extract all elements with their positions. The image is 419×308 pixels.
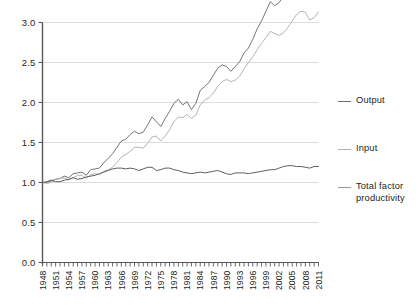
x-tick-label: 1966 bbox=[117, 270, 127, 290]
x-tick-label: 1975 bbox=[156, 270, 166, 290]
x-tick-label: 1948 bbox=[38, 270, 48, 290]
x-tick-label: 2008 bbox=[301, 270, 311, 290]
x-tick-label: 2011 bbox=[314, 270, 324, 289]
y-tick-label: 2.0 bbox=[22, 97, 36, 108]
legend-label-1: Input bbox=[356, 143, 377, 155]
series-line-input bbox=[43, 11, 319, 183]
x-tick-label: 1963 bbox=[103, 270, 113, 290]
x-tick-label: 1969 bbox=[130, 270, 140, 290]
x-tick-label: 1978 bbox=[169, 270, 179, 290]
legend-label-2: Total factor productivity bbox=[356, 181, 405, 204]
x-tick-label: 1972 bbox=[143, 270, 153, 290]
x-tick-label: 1987 bbox=[209, 270, 219, 290]
x-tick-label: 1981 bbox=[182, 270, 192, 290]
y-tick-label: 1.0 bbox=[22, 177, 36, 188]
y-tick-label: 1.5 bbox=[22, 137, 36, 148]
y-tick-label: 3.0 bbox=[22, 17, 36, 28]
x-tick-label: 1951 bbox=[51, 270, 61, 290]
legend-label-0: Output bbox=[356, 95, 385, 107]
x-tick-label: 1957 bbox=[77, 270, 87, 290]
x-tick-label: 1996 bbox=[248, 270, 258, 290]
legend-swatch-0 bbox=[338, 101, 351, 102]
y-tick-label: 0.5 bbox=[22, 217, 36, 228]
x-tick-label: 1984 bbox=[195, 270, 205, 290]
series-line-output bbox=[43, 0, 319, 183]
line-chart: 0.00.51.01.52.02.53.01948195119541957196… bbox=[0, 0, 419, 308]
x-tick-label: 2005 bbox=[287, 270, 297, 290]
x-tick-label: 1954 bbox=[64, 270, 74, 290]
x-tick-label: 1993 bbox=[235, 270, 245, 290]
y-tick-label: 0.0 bbox=[22, 257, 36, 268]
legend-swatch-1 bbox=[338, 149, 351, 150]
legend-swatch-2 bbox=[338, 187, 351, 188]
y-tick-label: 2.5 bbox=[22, 57, 36, 68]
x-tick-label: 1960 bbox=[90, 270, 100, 290]
x-tick-label: 2002 bbox=[274, 270, 284, 290]
x-tick-label: 1999 bbox=[261, 270, 271, 290]
x-tick-label: 1990 bbox=[222, 270, 232, 290]
